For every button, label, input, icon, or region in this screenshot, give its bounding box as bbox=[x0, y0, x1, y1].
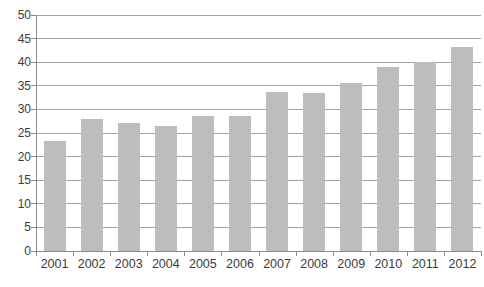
y-tick-20 bbox=[31, 156, 36, 157]
bar-2009 bbox=[340, 83, 362, 251]
x-tick-7 bbox=[296, 252, 297, 256]
bar-2002 bbox=[81, 119, 103, 251]
y-tick-40 bbox=[31, 62, 36, 63]
x-axis-label-2005: 2005 bbox=[184, 257, 221, 272]
y-axis-label-45: 45 bbox=[2, 32, 31, 46]
bar-2012 bbox=[451, 47, 473, 251]
bar-2006 bbox=[229, 116, 251, 251]
y-tick-25 bbox=[31, 133, 36, 134]
x-tick-3 bbox=[147, 252, 148, 256]
y-tick-35 bbox=[31, 85, 36, 86]
bar-2008 bbox=[303, 93, 325, 251]
x-tick-6 bbox=[259, 252, 260, 256]
x-axis-label-2006: 2006 bbox=[221, 257, 258, 272]
x-axis-label-2012: 2012 bbox=[444, 257, 481, 272]
bar-2005 bbox=[192, 116, 214, 251]
x-axis-label-2001: 2001 bbox=[36, 257, 73, 272]
y-axis-label-50: 50 bbox=[2, 8, 31, 22]
x-tick-0 bbox=[36, 252, 37, 256]
x-tick-8 bbox=[333, 252, 334, 256]
bar-2010 bbox=[377, 67, 399, 251]
y-tick-50 bbox=[31, 15, 36, 16]
y-axis-label-0: 0 bbox=[2, 244, 31, 258]
x-axis-label-2010: 2010 bbox=[370, 257, 407, 272]
bar-2011 bbox=[414, 62, 436, 251]
bar-2007 bbox=[266, 92, 288, 251]
y-axis-label-35: 35 bbox=[2, 79, 31, 93]
y-tick-30 bbox=[31, 109, 36, 110]
x-tick-1 bbox=[73, 252, 74, 256]
y-axis-label-5: 5 bbox=[2, 220, 31, 234]
gridline-50 bbox=[36, 15, 481, 16]
y-tick-15 bbox=[31, 180, 36, 181]
y-tick-5 bbox=[31, 227, 36, 228]
x-axis-label-2011: 2011 bbox=[407, 257, 444, 272]
x-tick-2 bbox=[110, 252, 111, 256]
bar-2003 bbox=[118, 123, 140, 251]
x-axis-label-2002: 2002 bbox=[73, 257, 110, 272]
y-axis-label-30: 30 bbox=[2, 102, 31, 116]
x-tick-10 bbox=[407, 252, 408, 256]
y-axis-label-10: 10 bbox=[2, 197, 31, 211]
bar-2004 bbox=[155, 126, 177, 251]
x-axis-label-2008: 2008 bbox=[296, 257, 333, 272]
y-tick-10 bbox=[31, 203, 36, 204]
y-axis-label-25: 25 bbox=[2, 126, 31, 140]
x-axis-label-2007: 2007 bbox=[259, 257, 296, 272]
x-tick-11 bbox=[444, 252, 445, 256]
y-axis-label-15: 15 bbox=[2, 173, 31, 187]
x-tick-9 bbox=[370, 252, 371, 256]
x-axis-label-2003: 2003 bbox=[110, 257, 147, 272]
x-tick-12 bbox=[481, 252, 482, 256]
y-axis-line bbox=[36, 15, 37, 253]
x-axis-label-2004: 2004 bbox=[147, 257, 184, 272]
y-tick-45 bbox=[31, 38, 36, 39]
x-tick-4 bbox=[184, 252, 185, 256]
y-axis-label-20: 20 bbox=[2, 150, 31, 164]
x-tick-5 bbox=[221, 252, 222, 256]
gridline-45 bbox=[36, 38, 481, 39]
bar-chart: 0510152025303540455020012002200320042005… bbox=[0, 0, 484, 287]
y-axis-label-40: 40 bbox=[2, 55, 31, 69]
x-axis-label-2009: 2009 bbox=[333, 257, 370, 272]
bar-2001 bbox=[44, 141, 66, 251]
